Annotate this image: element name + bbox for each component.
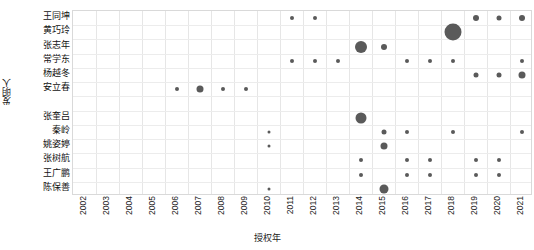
gridline-horizontal — [73, 168, 531, 169]
data-point-bubble[interactable] — [428, 59, 432, 63]
gridline-horizontal — [73, 153, 531, 154]
data-point-bubble[interactable] — [380, 143, 387, 150]
data-point-bubble[interactable] — [444, 24, 461, 41]
data-point-bubble[interactable] — [379, 184, 388, 193]
gridline-horizontal — [73, 182, 531, 183]
data-point-bubble[interactable] — [428, 173, 432, 177]
gridline-horizontal — [73, 125, 531, 126]
x-axis-tick-label: 2019 — [470, 196, 479, 215]
data-point-bubble[interactable] — [451, 130, 455, 134]
x-axis-tick-label: 2020 — [493, 196, 502, 215]
data-point-bubble[interactable] — [267, 130, 270, 133]
data-point-bubble[interactable] — [196, 86, 203, 93]
x-axis-title: 授权年 — [0, 231, 534, 244]
data-point-bubble[interactable] — [336, 59, 340, 63]
data-point-bubble[interactable] — [473, 15, 479, 21]
x-axis-tick-label: 2004 — [125, 196, 134, 215]
data-point-bubble[interactable] — [405, 173, 409, 177]
x-axis-tick-label: 2015 — [378, 196, 387, 215]
y-axis-tick-label: 王广鹏 — [18, 169, 70, 178]
y-axis-tick-label: 陈保善 — [18, 183, 70, 192]
x-axis-tick-label: 2021 — [516, 196, 525, 215]
data-point-bubble[interactable] — [221, 87, 225, 91]
x-axis-tick-label: 2018 — [447, 196, 456, 215]
data-point-bubble[interactable] — [405, 158, 409, 162]
data-point-bubble[interactable] — [497, 158, 501, 162]
x-axis-tick-label: 2007 — [194, 196, 203, 215]
plot-area — [72, 10, 532, 195]
data-point-bubble[interactable] — [451, 59, 455, 63]
data-point-bubble[interactable] — [474, 158, 478, 162]
data-point-bubble[interactable] — [175, 87, 179, 91]
x-axis-tick-label: 2013 — [332, 196, 341, 215]
y-axis-tick-label: 王同坤 — [18, 12, 70, 21]
gridline-horizontal — [73, 39, 531, 40]
data-point-bubble[interactable] — [290, 59, 294, 63]
gridline-horizontal — [73, 68, 531, 69]
data-point-bubble[interactable] — [518, 72, 525, 79]
x-axis-tick-label: 2008 — [217, 196, 226, 215]
data-point-bubble[interactable] — [473, 73, 478, 78]
gridline-horizontal — [73, 139, 531, 140]
data-point-bubble[interactable] — [474, 173, 478, 177]
data-point-bubble[interactable] — [381, 129, 386, 134]
data-point-bubble[interactable] — [355, 112, 366, 123]
x-axis-tick-label: 2016 — [401, 196, 410, 215]
gridline-horizontal — [73, 111, 531, 112]
x-axis-tick-label: 2006 — [171, 196, 180, 215]
x-axis-tick-label: 2005 — [148, 196, 157, 215]
bubble-chart-figure: 发明人 王同坤黄巧玲张志年常学东杨越冬安立春张奎吕秦岭姚姿婷张树航王广鹏陈保善 … — [0, 0, 534, 250]
gridline-horizontal — [73, 96, 531, 97]
x-axis-tick-label: 2010 — [263, 196, 272, 215]
y-axis-tick-label: 张奎吕 — [18, 112, 70, 121]
data-point-bubble[interactable] — [359, 158, 363, 162]
x-axis-tick-label: 2012 — [309, 196, 318, 215]
y-axis-tick-label: 常学东 — [18, 55, 70, 64]
x-axis-tick-label: 2002 — [79, 196, 88, 215]
data-point-bubble[interactable] — [381, 44, 387, 50]
y-axis-tick-label: 秦岭 — [18, 126, 70, 135]
data-point-bubble[interactable] — [428, 158, 432, 162]
gridline-horizontal — [73, 25, 531, 26]
data-point-bubble[interactable] — [267, 187, 270, 190]
x-axis-tick-label: 2014 — [355, 196, 364, 215]
data-point-bubble[interactable] — [520, 130, 524, 134]
x-axis-tick-label: 2011 — [286, 196, 295, 214]
data-point-bubble[interactable] — [313, 59, 317, 63]
y-axis-title: 发明人 — [2, 78, 11, 105]
gridline-horizontal — [73, 82, 531, 83]
y-axis-tick-label: 安立春 — [18, 83, 70, 92]
gridline-horizontal — [73, 54, 531, 55]
data-point-bubble[interactable] — [496, 16, 501, 21]
data-point-bubble[interactable] — [267, 145, 270, 148]
data-point-bubble[interactable] — [405, 59, 409, 63]
data-point-bubble[interactable] — [313, 16, 317, 20]
data-point-bubble[interactable] — [290, 16, 294, 20]
y-axis-tick-label: 张树航 — [18, 154, 70, 163]
x-axis-tick-label: 2009 — [240, 196, 249, 215]
y-axis-tick-label: 杨越冬 — [18, 69, 70, 78]
data-point-bubble[interactable] — [520, 59, 524, 63]
y-axis-tick-label: 张志年 — [18, 41, 70, 50]
y-axis-tick-labels: 王同坤黄巧玲张志年常学东杨越冬安立春张奎吕秦岭姚姿婷张树航王广鹏陈保善 — [18, 10, 70, 195]
data-point-bubble[interactable] — [519, 15, 525, 21]
data-point-bubble[interactable] — [405, 130, 409, 134]
y-axis-tick-label: 黄巧玲 — [18, 26, 70, 35]
data-point-bubble[interactable] — [244, 87, 248, 91]
data-point-bubble[interactable] — [359, 173, 363, 177]
data-point-bubble[interactable] — [497, 173, 501, 177]
data-point-bubble[interactable] — [355, 41, 367, 53]
y-axis-tick-label: 姚姿婷 — [18, 140, 70, 149]
x-axis-tick-label: 2003 — [102, 196, 111, 215]
data-point-bubble[interactable] — [496, 73, 501, 78]
x-axis-tick-label: 2017 — [424, 196, 433, 215]
x-axis-tick-labels: 2002200320042005200620072008200920102011… — [72, 196, 532, 230]
